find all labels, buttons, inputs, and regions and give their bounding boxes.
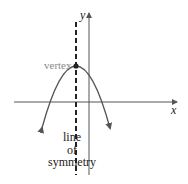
vertex-label: vertex [44,59,71,71]
vertex-point [73,63,78,68]
line-of-symmetry-label-line3: symmetry [42,156,102,169]
y-axis-label: y [80,9,85,21]
x-axis-label: x [171,104,176,116]
line-of-symmetry-label: line of symmetry [42,131,102,169]
line-of-symmetry-label-line1: line [42,131,102,144]
parabola-diagram: y x vertex line of symmetry [0,0,188,184]
